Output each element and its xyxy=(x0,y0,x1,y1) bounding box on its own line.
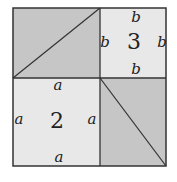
pythagorean-diagram: b b 3 b b a a 2 a a xyxy=(0,0,177,182)
square-2-label-bottom: a xyxy=(55,148,64,166)
square-2-label-left: a xyxy=(15,110,24,128)
square-2-number: 2 xyxy=(50,108,64,133)
square-3-number: 3 xyxy=(127,29,141,54)
square-3-label-bottom: b xyxy=(131,60,141,78)
square-2-label-top: a xyxy=(54,76,63,94)
square-3-label-left: b xyxy=(100,33,110,51)
square-2-label-right: a xyxy=(88,110,97,128)
square-3-label-right: b xyxy=(157,33,167,51)
square-3-label-top: b xyxy=(131,8,141,26)
